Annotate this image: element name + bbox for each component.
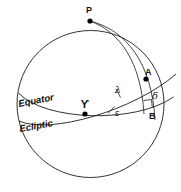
- label-curve-equator: Equator: [17, 91, 56, 109]
- point-marker-A: [143, 76, 148, 81]
- right-angle-icon: [144, 100, 153, 108]
- point-marker-Y: [82, 111, 87, 116]
- label-point-B: B: [149, 111, 156, 121]
- label-point-A: A: [145, 67, 152, 77]
- point-marker-P: [87, 18, 92, 23]
- label-angle-epsilon: ε: [115, 108, 120, 118]
- label-curve-ecliptic: Ecliptic: [18, 117, 54, 134]
- celestial-sphere-diagram: P A B ϒ λ ε δ Equator Ecliptic: [0, 0, 181, 192]
- label-point-vernal-equinox: ϒ: [81, 98, 90, 110]
- label-angle-delta: δ: [152, 90, 158, 101]
- label-angle-lambda: λ: [114, 84, 121, 95]
- label-point-P: P: [86, 5, 92, 15]
- celestial-sphere-svg: P A B ϒ λ ε δ Equator Ecliptic: [0, 0, 181, 192]
